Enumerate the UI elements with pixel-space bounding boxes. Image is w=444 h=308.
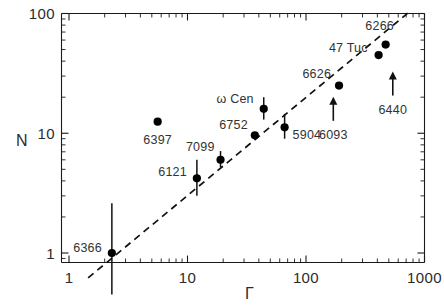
axis-ticks	[62, 14, 425, 263]
data-point	[335, 81, 343, 89]
data-points-layer	[108, 40, 397, 294]
point-label: 6093	[319, 128, 348, 142]
point-label: 5904	[293, 128, 322, 142]
point-label: 6397	[143, 133, 172, 147]
data-point	[108, 249, 116, 257]
data-point	[375, 51, 383, 59]
data-point	[281, 123, 289, 131]
y-axis-title: N	[16, 132, 28, 149]
data-point	[251, 131, 259, 139]
data-point	[260, 105, 268, 113]
point-label: 6266	[365, 19, 394, 33]
point-label: 6752	[219, 118, 248, 132]
point-label: 6366	[73, 241, 102, 255]
limit-arrow-head	[329, 97, 337, 105]
data-point	[154, 118, 162, 126]
x-tick-label: 100	[293, 269, 319, 286]
point-label: 47 Tuc	[329, 41, 368, 55]
x-tick-label: 1	[65, 269, 74, 286]
data-point	[382, 40, 390, 48]
point-label: ω Cen	[217, 92, 254, 106]
x-axis-title: Γ	[245, 285, 254, 302]
limit-arrow-head	[389, 72, 397, 80]
point-label: 6440	[378, 103, 407, 117]
point-labels: 63666397612170996752ω Cen5904662647 Tuc6…	[73, 19, 407, 255]
y-tick-label: 100	[29, 5, 55, 22]
data-point	[216, 156, 224, 164]
point-label: 6626	[302, 67, 331, 81]
y-tick-label: 10	[38, 125, 56, 142]
scatter-plot-figure: 1101001000110100 63666397612170996752ω C…	[0, 0, 444, 308]
axis-frame	[62, 14, 425, 263]
data-point	[193, 174, 201, 182]
plot-canvas: 1101001000110100 63666397612170996752ω C…	[0, 0, 444, 308]
y-tick-label: 1	[46, 245, 55, 262]
x-tick-label: 10	[179, 269, 197, 286]
x-tick-label: 1000	[407, 269, 442, 286]
point-label: 7099	[186, 140, 215, 154]
point-label: 6121	[158, 165, 187, 179]
